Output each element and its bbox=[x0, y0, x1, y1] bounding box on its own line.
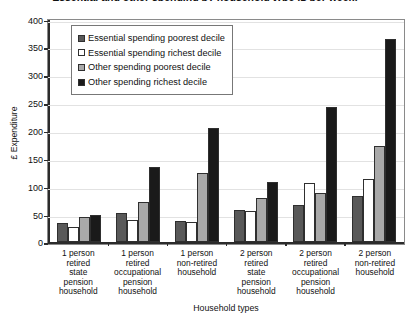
x-tick-mark bbox=[167, 242, 168, 246]
x-tick-label: 2 person retired occupational pension ho… bbox=[286, 249, 345, 297]
bar bbox=[245, 211, 256, 243]
y-tick-label: 100 bbox=[9, 183, 43, 193]
legend-label: Other spending richest decile bbox=[88, 77, 207, 87]
bar bbox=[90, 215, 101, 242]
x-tick-label: 1 person retired state pension household bbox=[49, 249, 108, 297]
bar bbox=[79, 217, 90, 243]
bar bbox=[385, 39, 396, 242]
legend-swatch bbox=[78, 64, 85, 71]
bar-group bbox=[286, 20, 345, 242]
legend-item: Essential spending poorest decile bbox=[78, 31, 225, 46]
legend-item: Other spending poorest decile bbox=[78, 60, 225, 75]
bar bbox=[127, 220, 138, 243]
bar bbox=[197, 173, 208, 243]
y-tick-label: 150 bbox=[9, 155, 43, 165]
y-tick-mark bbox=[44, 188, 48, 189]
bar bbox=[68, 227, 79, 243]
bar bbox=[175, 221, 186, 242]
y-tick-mark bbox=[44, 243, 48, 244]
y-tick-mark bbox=[44, 21, 48, 22]
bar-group bbox=[345, 20, 404, 242]
x-axis-title: Household types bbox=[47, 303, 405, 313]
y-tick-label: 400 bbox=[9, 16, 43, 26]
legend-swatch bbox=[78, 35, 85, 42]
legend-item: Other spending richest decile bbox=[78, 75, 225, 90]
y-tick-mark bbox=[44, 104, 48, 105]
legend-label: Essential spending richest decile bbox=[88, 48, 221, 58]
legend-swatch bbox=[78, 79, 85, 86]
x-tick-mark bbox=[108, 242, 109, 246]
legend-label: Essential spending poorest decile bbox=[88, 33, 225, 43]
bar-group bbox=[227, 20, 286, 242]
bar bbox=[293, 205, 304, 243]
y-tick-mark bbox=[44, 76, 48, 77]
bar bbox=[304, 183, 315, 242]
x-tick-mark bbox=[344, 242, 345, 246]
legend-item: Essential spending richest decile bbox=[78, 46, 225, 61]
legend-swatch bbox=[78, 49, 85, 56]
y-tick-mark bbox=[44, 216, 48, 217]
chart-title: Essential and other spending by househol… bbox=[40, 0, 370, 1]
y-tick-label: 50 bbox=[9, 211, 43, 221]
bar bbox=[57, 223, 68, 242]
bar bbox=[315, 193, 326, 242]
bar bbox=[234, 210, 245, 243]
legend-label: Other spending poorest decile bbox=[88, 62, 211, 72]
bar-chart-figure: Essential and other spending by househol… bbox=[0, 0, 411, 324]
bar bbox=[352, 196, 363, 242]
y-tick-label: 350 bbox=[9, 43, 43, 53]
bar bbox=[186, 222, 197, 242]
bar bbox=[256, 198, 267, 242]
x-axis-tick-labels: 1 person retired state pension household… bbox=[49, 249, 405, 297]
y-tick-label: 200 bbox=[9, 127, 43, 137]
chart-legend: Essential spending poorest decileEssenti… bbox=[71, 25, 233, 95]
y-tick-label: 0 bbox=[9, 238, 43, 248]
bar bbox=[138, 202, 149, 242]
y-tick-mark bbox=[44, 132, 48, 133]
x-tick-label: 1 person non-retired household bbox=[167, 249, 226, 297]
y-tick-label: 300 bbox=[9, 71, 43, 81]
bar bbox=[149, 167, 160, 243]
bar bbox=[208, 128, 219, 242]
bar bbox=[267, 182, 278, 243]
bar bbox=[326, 107, 337, 242]
bar bbox=[116, 213, 127, 242]
x-tick-label: 2 person non-retired household bbox=[345, 249, 404, 297]
x-tick-label: 1 person retired occupational pension ho… bbox=[108, 249, 167, 297]
x-tick-mark bbox=[285, 242, 286, 246]
y-tick-mark bbox=[44, 160, 48, 161]
y-tick-label: 250 bbox=[9, 99, 43, 109]
x-tick-mark bbox=[226, 242, 227, 246]
x-tick-label: 2 person retired state pension household bbox=[227, 249, 286, 297]
bar bbox=[374, 146, 385, 242]
bar bbox=[363, 179, 374, 242]
y-tick-mark bbox=[44, 48, 48, 49]
